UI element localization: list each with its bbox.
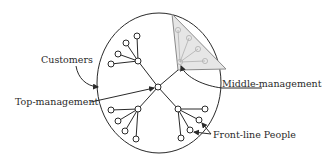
top-management-node (155, 84, 161, 90)
hub-node-top-left (135, 58, 141, 64)
customers-label: Customers (41, 55, 93, 65)
top-management-label: Top-management (15, 97, 98, 107)
customers-arrow (76, 66, 98, 87)
pointer-arrows (76, 66, 262, 134)
hub-node-bottom-left (135, 106, 141, 112)
middle-management-triangle (172, 14, 226, 70)
top-management-arrow (91, 88, 154, 102)
hub-node-bottom-right (175, 106, 181, 112)
organization-diagram: Customers Top-management Middle-manageme… (0, 0, 328, 157)
front-line-people-label: Front-line People (213, 130, 296, 140)
middle-management-label: Middle-management (222, 79, 322, 89)
